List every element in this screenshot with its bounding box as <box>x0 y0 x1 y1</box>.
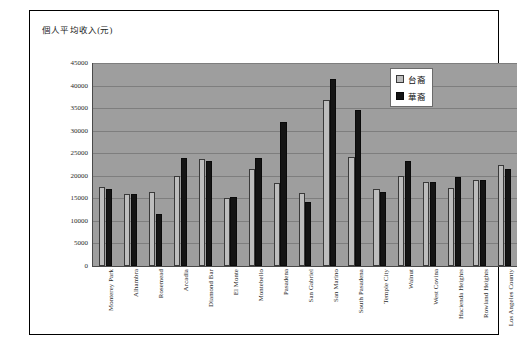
x-axis-tick-label: Pasadena <box>282 269 289 295</box>
bar <box>323 100 329 266</box>
bar <box>373 189 379 266</box>
y-axis-tick-label: 5000 <box>52 239 88 247</box>
bar <box>473 180 479 266</box>
bar <box>255 158 261 266</box>
x-axis-tick-labels: Monterey ParkAlhambraRosemeadArcadiaDiam… <box>92 269 516 346</box>
x-axis-tick-label: Diamond Bar <box>207 269 214 307</box>
y-axis-tick-label: 20000 <box>52 172 88 180</box>
bar <box>398 176 404 266</box>
y-axis-tick-label: 45000 <box>52 59 88 67</box>
figure-border: 個人平均收入(元) 050001000015000200002500030000… <box>29 10 499 335</box>
bar <box>224 198 230 266</box>
bar <box>230 197 236 266</box>
bar <box>380 192 386 266</box>
bar <box>448 188 454 266</box>
x-axis-tick-label: Monterey Park <box>107 269 114 311</box>
x-axis-tick-label: Walnut <box>407 269 414 289</box>
gridline <box>93 108 517 109</box>
y-axis-tick-label: 40000 <box>52 82 88 90</box>
y-axis-tick-labels: 0500010000150002000025000300003500040000… <box>48 63 88 266</box>
x-axis-tick-label: Los Angeles County <box>507 269 514 326</box>
x-axis-tick-label: Montebello <box>257 269 264 301</box>
bar <box>355 110 361 266</box>
bar <box>430 182 436 266</box>
bar <box>174 176 180 266</box>
bar <box>181 158 187 266</box>
y-axis-tick-label: 0 <box>52 262 88 270</box>
bar <box>99 187 105 266</box>
gridline <box>93 86 517 87</box>
bar <box>299 193 305 266</box>
bar <box>405 161 411 266</box>
y-axis-tick-label: 35000 <box>52 104 88 112</box>
bar <box>156 214 162 266</box>
legend-swatch-icon <box>396 75 404 83</box>
x-axis-tick-label: San Marino <box>332 269 339 302</box>
x-axis-tick-label: South Pasadena <box>357 269 364 313</box>
chart-legend: 台裔 華裔 <box>390 68 433 107</box>
x-axis-tick-label: San Gabriel <box>307 269 314 302</box>
bar <box>206 161 212 266</box>
x-axis-tick-label: Alhambra <box>132 269 139 297</box>
bar <box>280 122 286 266</box>
plot-area <box>92 63 517 267</box>
x-axis-tick-label: Rowland Heights <box>482 269 489 318</box>
y-axis-tick-label: 25000 <box>52 149 88 157</box>
bar <box>274 183 280 266</box>
bar <box>106 189 112 266</box>
legend-item-label: 台裔 <box>408 73 426 85</box>
bar <box>498 165 504 267</box>
bar <box>149 192 155 266</box>
bar <box>124 194 130 266</box>
gridline <box>93 153 517 154</box>
x-axis-tick-label: West Covina <box>432 269 439 305</box>
y-axis-tick-label: 10000 <box>52 217 88 225</box>
chart-title: 個人平均收入(元) <box>42 23 112 35</box>
legend-swatch-icon <box>396 92 404 100</box>
legend-item-chinese: 華裔 <box>396 90 426 102</box>
bar <box>480 180 486 266</box>
gridline <box>93 176 517 177</box>
bar <box>423 182 429 266</box>
gridline <box>93 131 517 132</box>
x-axis-tick-label: Arcadia <box>182 269 189 291</box>
gridline <box>93 63 517 64</box>
bar <box>330 79 336 266</box>
bar <box>455 177 461 266</box>
legend-item-taiwanese: 台裔 <box>396 73 426 85</box>
x-axis-tick-label: Hacienda Heights <box>457 269 464 319</box>
y-axis-tick-label: 15000 <box>52 194 88 202</box>
legend-item-label: 華裔 <box>408 90 426 102</box>
x-axis-tick-label: El Monte <box>232 269 239 295</box>
bar <box>249 169 255 266</box>
bar <box>305 202 311 266</box>
x-axis-tick-label: Rosemead <box>157 269 164 298</box>
bar <box>348 157 354 266</box>
x-axis-tick-label: Temple City <box>382 269 389 304</box>
bar <box>199 159 205 266</box>
bar <box>505 169 511 266</box>
bar <box>131 194 137 266</box>
y-axis-tick-label: 30000 <box>52 127 88 135</box>
